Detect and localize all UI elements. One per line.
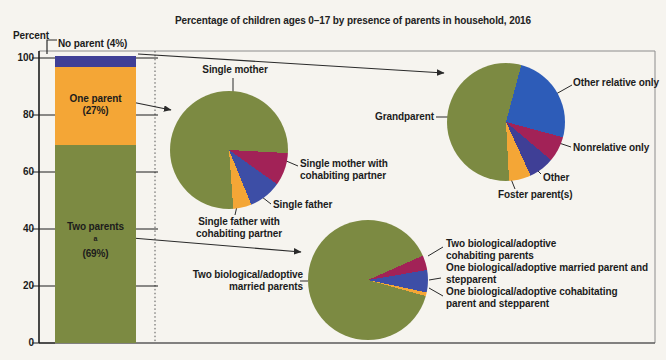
label-single-father: Single father	[273, 199, 332, 211]
y-tick-60: 60	[8, 166, 34, 178]
pie-one-parent-breakdown	[170, 91, 288, 209]
label-one-parent: One parent (27%)	[55, 93, 136, 117]
chart-title: Percentage of children ages 0–17 by pres…	[40, 15, 666, 27]
label-foster-parents: Foster parent(s)	[498, 189, 573, 201]
label-single-mother: Single mother	[180, 64, 290, 76]
y-tick-0: 0	[8, 337, 34, 349]
label-two-parents: Two parentsa (69%)	[55, 221, 136, 260]
y-axis-title: Percent	[13, 30, 49, 42]
label-single-mother-cohabiting: Single mother with cohabiting partner	[300, 158, 418, 182]
y-tick-80: 80	[8, 109, 34, 121]
label-single-father-cohabiting: Single father with cohabiting partner	[180, 216, 298, 240]
pie-two-parents-breakdown	[308, 220, 428, 340]
label-one-bio-cohabitating-stepparent: One biological/adoptive cohabitating par…	[446, 286, 646, 310]
bar-segment-no-parent	[55, 56, 136, 67]
pie-no-parent-breakdown	[447, 63, 565, 181]
y-tick-100: 100	[8, 52, 34, 64]
label-no-parent: No parent (4%)	[58, 38, 127, 50]
label-nonrelative-only: Nonrelative only	[573, 142, 653, 154]
label-one-bio-married-stepparent: One biological/adoptive married parent a…	[446, 262, 654, 286]
leader-two-parents-arrow	[132, 238, 301, 252]
no-parent-bracket	[47, 40, 57, 54]
y-tick-20: 20	[8, 280, 34, 292]
y-tick-40: 40	[8, 223, 34, 235]
label-grandparent: Grandparent	[354, 111, 434, 123]
figure-family-structure: Percentage of children ages 0–17 by pres…	[0, 0, 666, 360]
label-other-relative-only: Other relative only	[573, 77, 663, 89]
footnote-marker-a: a	[94, 235, 98, 242]
label-two-bio-married: Two biological/adoptive married parents	[173, 269, 303, 293]
label-other: Other	[543, 172, 569, 184]
label-two-bio-cohabiting: Two biological/adoptive cohabiting paren…	[446, 238, 596, 262]
